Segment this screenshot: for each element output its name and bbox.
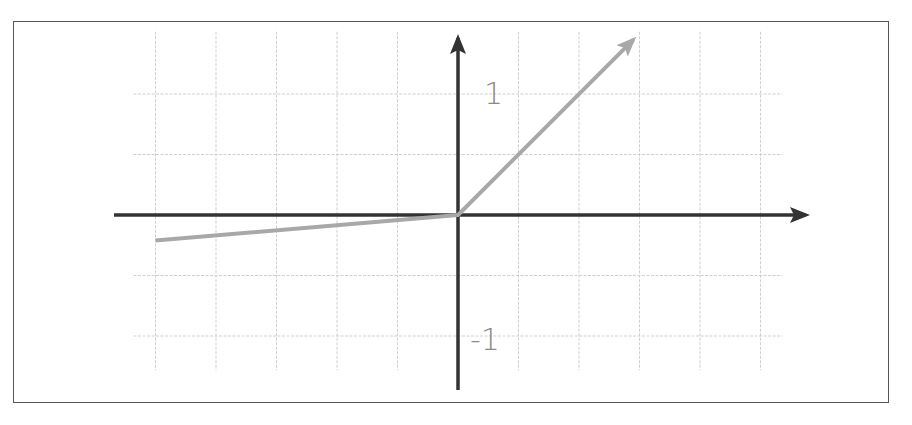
leaky-relu-curve [156, 40, 634, 241]
leaky-relu-chart: 1 -1 [0, 0, 912, 425]
y-tick-label-neg-1: -1 [470, 322, 500, 357]
y-tick-label-1: 1 [484, 76, 503, 111]
